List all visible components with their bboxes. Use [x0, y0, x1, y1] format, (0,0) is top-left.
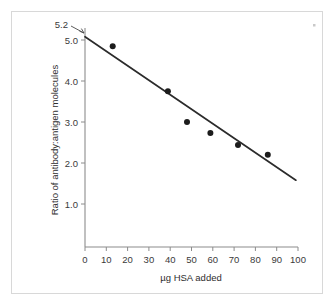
y-tick-label: 2.0 [65, 158, 78, 169]
x-tick-label: 30 [144, 254, 155, 265]
x-tick-label: 50 [186, 254, 197, 265]
x-tick-marks [85, 247, 298, 251]
x-tick-label: 80 [250, 254, 261, 265]
data-point [235, 142, 241, 148]
x-tick-label: 20 [122, 254, 133, 265]
data-point [184, 119, 190, 125]
x-tick-label: 40 [165, 254, 176, 265]
x-tick-labels: 0 10 20 30 40 50 60 70 80 90 100 [82, 254, 306, 265]
x-tick-label: 100 [290, 254, 306, 265]
intercept-annotation-label: 5.2 [55, 19, 68, 30]
data-point [265, 152, 271, 158]
y-tick-label: 3.0 [65, 117, 78, 128]
data-point [207, 130, 213, 136]
x-tick-label: 70 [229, 254, 240, 265]
y-tick-label: 5.0 [65, 35, 78, 46]
x-tick-label: 60 [208, 254, 219, 265]
x-tick-label: 90 [271, 254, 282, 265]
y-tick-label: 1.0 [65, 199, 78, 210]
x-axis-title: µg HSA added [160, 272, 221, 283]
page-speck [313, 24, 316, 27]
data-point [165, 88, 171, 94]
y-tick-marks [81, 40, 85, 204]
data-points [110, 43, 271, 158]
regression-line [85, 37, 296, 181]
y-axis-title: Ratio of antibody:antigen molecules [49, 64, 60, 215]
y-tick-labels: 5.0 4.0 3.0 2.0 1.0 [65, 35, 78, 210]
scatter-plot: 5.0 4.0 3.0 2.0 1.0 0 10 20 30 40 50 60 … [0, 0, 335, 306]
y-tick-label: 4.0 [65, 76, 78, 87]
x-tick-label: 0 [82, 254, 87, 265]
figure-root: 5.0 4.0 3.0 2.0 1.0 0 10 20 30 40 50 60 … [0, 0, 335, 306]
x-tick-label: 10 [101, 254, 112, 265]
data-point [110, 43, 116, 49]
